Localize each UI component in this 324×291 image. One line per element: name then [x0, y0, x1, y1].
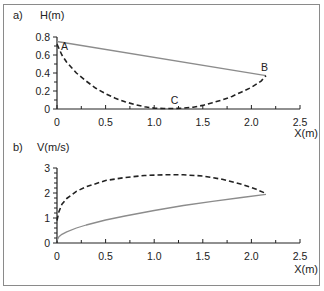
y-tick-label: 0 [44, 237, 50, 249]
point-label-b: B [261, 61, 268, 73]
series-dashed-line [57, 44, 266, 108]
y-tick-label: 0.6 [35, 49, 50, 61]
x-tick-label: 1.0 [147, 250, 162, 262]
x-tick-label: 2.5 [293, 116, 308, 128]
panel-label: a) [13, 9, 23, 21]
y-axis-label: V(m/s) [37, 141, 69, 153]
panel-label: b) [13, 141, 23, 153]
x-tick-label: 2.5 [293, 250, 308, 262]
x-axis-label: X(m) [294, 127, 318, 139]
y-tick-label: 1 [44, 212, 50, 224]
chart-panel-b: b)V(m/s)X(m)00.51.01.52.02.50123 [13, 141, 318, 275]
y-tick-label: 0.8 [35, 31, 50, 43]
x-tick-label: 1.5 [195, 250, 210, 262]
x-tick-label: 1.0 [147, 116, 162, 128]
y-tick-label: 0.4 [35, 67, 50, 79]
y-tick-label: 0.2 [35, 85, 50, 97]
x-tick-label: 0 [54, 116, 60, 128]
chart-panel-a: a)H(m)X(m)00.51.01.52.02.500.20.40.60.8A… [13, 9, 318, 139]
y-tick-label: 2 [44, 187, 50, 199]
y-tick-label: 0 [44, 103, 50, 115]
x-tick-label: 0.5 [98, 116, 113, 128]
figure-canvas: a)H(m)X(m)00.51.01.52.02.500.20.40.60.8A… [0, 0, 324, 291]
x-tick-label: 0.5 [98, 250, 113, 262]
x-axis-label: X(m) [294, 263, 318, 275]
x-tick-label: 2.0 [244, 116, 259, 128]
series-solid-line [57, 42, 266, 76]
point-label-c: C [171, 94, 179, 106]
series-dashed-line [57, 175, 266, 221]
x-tick-label: 1.5 [195, 116, 210, 128]
y-tick-label: 3 [44, 162, 50, 174]
point-label-a: A [61, 40, 68, 52]
y-axis-label: H(m) [40, 9, 64, 21]
x-tick-label: 0 [54, 250, 60, 262]
series-solid-line [57, 194, 266, 240]
x-tick-label: 2.0 [244, 250, 259, 262]
